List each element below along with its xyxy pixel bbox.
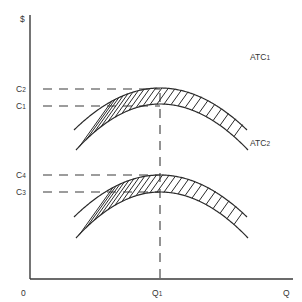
atc2-hatch-line (185, 182, 195, 196)
y-axis-label: $ (20, 14, 25, 24)
atc1-hatch-line (80, 101, 112, 146)
c3-label: C3 (16, 187, 26, 197)
atc1-hatch-line (199, 100, 208, 113)
atc2-hatch-line (234, 213, 243, 225)
atc1-hatch-line (87, 99, 116, 139)
atc2-hatch-line (150, 174, 163, 192)
atc2-hatch-line (192, 184, 202, 198)
origin-label: 0 (21, 288, 26, 298)
atc2-band (74, 174, 248, 238)
atc2-hatch-line (157, 175, 169, 192)
atc1-hatch-line (227, 119, 236, 131)
cost-curves-diagram: $ 0 Q Q1 C2 C1 C4 C3 ATC1 ATC2 (0, 0, 302, 302)
atc2-hatch-line (80, 188, 113, 234)
q1-label: Q1 (152, 288, 163, 298)
atc2-label: ATC2 (250, 138, 270, 148)
atc1-hatch-line (157, 88, 169, 104)
atc1-label: ATC1 (250, 52, 270, 62)
atc1-hatch-line (143, 88, 156, 106)
atc2-hatch-line (206, 191, 216, 204)
atc1-hatch-line (192, 97, 202, 110)
atc2-hatch-line (199, 188, 209, 201)
atc2-hatch-line (143, 175, 157, 194)
atc1-hatch-line (178, 92, 188, 106)
atc1-hatch-line (94, 97, 119, 132)
x-axis-label: Q (283, 288, 290, 298)
atc1-hatch-line (185, 94, 195, 107)
atc2-hatch-line (101, 182, 125, 215)
atc1-band (74, 88, 248, 150)
c1-label: C1 (16, 101, 26, 111)
atc1-hatch-line (213, 109, 222, 121)
atc2-lower-curve (76, 192, 248, 238)
atc1-lower-curve (76, 104, 248, 150)
atc1-hatch-line (234, 125, 243, 137)
atc2-hatch-line (227, 206, 236, 219)
c4-label: C4 (16, 170, 26, 180)
c2-label: C2 (16, 84, 26, 94)
atc2-hatch-line (213, 196, 222, 209)
atc2-hatch-line (220, 201, 229, 214)
atc1-hatch-line (206, 104, 215, 117)
atc2-hatch-line (94, 184, 120, 220)
atc1-hatch-line (220, 113, 229, 125)
